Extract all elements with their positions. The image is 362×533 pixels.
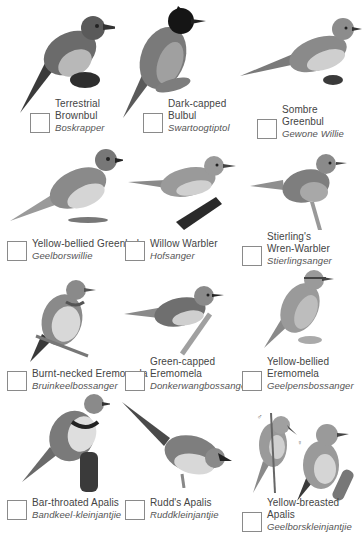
tick-checkbox[interactable] [7, 500, 27, 520]
common-name: Yellow-bellied [267, 356, 354, 368]
male-symbol: ♂ [257, 413, 262, 420]
tick-checkbox[interactable] [125, 241, 145, 261]
tick-checkbox[interactable] [30, 113, 50, 133]
afrikaans-name: Boskrapper [55, 122, 105, 134]
bird-label-sombre-greenbul: Sombre Greenbul Gewone Willie [257, 104, 362, 140]
afrikaans-name: Gewone Willie [282, 128, 362, 140]
tick-checkbox[interactable] [242, 371, 262, 391]
afrikaans-name: Swartoogtiptol [168, 122, 230, 134]
common-name: Eremomela [267, 368, 354, 380]
willow-warbler-illustration [126, 152, 238, 236]
common-name: Wren-Warbler [267, 243, 332, 255]
bird-label-green-capped-eremomela: Green-capped Eremomela Donkerwangbossang… [125, 356, 250, 392]
green-capped-eremomela-illustration [122, 284, 224, 360]
rudds-apalis-illustration [120, 398, 232, 492]
tick-checkbox[interactable] [7, 241, 27, 261]
afrikaans-name: Stierlingsanger [267, 255, 332, 267]
bird-label-willow-warbler: Willow Warbler Hofsanger [125, 238, 218, 262]
common-name: Eremomela [150, 368, 250, 380]
afrikaans-name: Bandkeel-kleinjantjie [32, 509, 121, 521]
common-name: Willow Warbler [150, 238, 218, 250]
burnt-necked-eremomela-illustration [26, 274, 101, 368]
sombre-greenbul-illustration [238, 14, 362, 93]
afrikaans-name: Geelborskleinjantjie [267, 521, 362, 533]
bird-label-yellow-breasted-apalis: Yellow-breasted Apalis Geelborskleinjant… [242, 497, 362, 533]
stierlings-wren-warbler-illustration [248, 152, 348, 236]
common-name: Bar-throated Apalis [32, 497, 121, 509]
afrikaans-name: Ruddkleinjantjie [150, 509, 219, 521]
bird-label-rudds-apalis: Rudd's Apalis Ruddkleinjantjie [125, 497, 219, 521]
tick-checkbox[interactable] [7, 371, 27, 391]
common-name: Yellow-breasted Apalis [267, 497, 362, 521]
common-name: Brownbul [55, 110, 105, 122]
bird-label-yellow-bellied-greenbul: Yellow-bellied Greenbul Geelborswillie [7, 238, 139, 262]
common-name: Yellow-bellied Greenbul [32, 238, 139, 250]
bird-label-stierlings-wren-warbler: Stierling's Wren-Warbler Stierlingsanger [242, 231, 332, 267]
afrikaans-name: Geelpensbossanger [267, 380, 354, 392]
afrikaans-name: Hofsanger [150, 250, 218, 262]
tick-checkbox[interactable] [125, 371, 145, 391]
afrikaans-name: Donkerwangbossanger [150, 380, 250, 392]
yellow-bellied-eremomela-illustration [262, 268, 336, 354]
tick-checkbox[interactable] [143, 113, 163, 133]
yellow-breasted-apalis-illustration: ♂ ♀ [245, 413, 355, 507]
tick-checkbox[interactable] [257, 119, 277, 139]
bar-throated-apalis-illustration [20, 392, 110, 496]
common-name: Dark-capped [168, 98, 230, 110]
yellow-bellied-greenbul-illustration [8, 146, 123, 230]
common-name: Green-capped [150, 356, 250, 368]
bird-label-yellow-bellied-eremomela: Yellow-bellied Eremomela Geelpensbossang… [242, 356, 354, 392]
common-name: Rudd's Apalis [150, 497, 219, 509]
common-name: Stierling's [267, 231, 332, 243]
bird-label-terrestrial-brownbul: Terrestrial Brownbul Boskrapper [30, 98, 105, 134]
common-name: Sombre Greenbul [282, 104, 362, 128]
common-name: Terrestrial [55, 98, 105, 110]
afrikaans-name: Geelborswillie [32, 250, 139, 262]
bird-label-dark-capped-bulbul: Dark-capped Bulbul Swartoogtiptol [143, 98, 230, 134]
female-symbol: ♀ [297, 439, 302, 446]
tick-checkbox[interactable] [125, 500, 145, 520]
common-name: Bulbul [168, 110, 230, 122]
tick-checkbox[interactable] [242, 246, 262, 266]
tick-checkbox[interactable] [242, 512, 262, 532]
bird-label-bar-throated-apalis: Bar-throated Apalis Bandkeel-kleinjantji… [7, 497, 121, 521]
